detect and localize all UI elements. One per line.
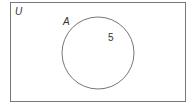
set-a-label: A — [62, 16, 70, 27]
set-a-region-value: 5 — [108, 32, 114, 43]
universal-set-label: U — [15, 6, 23, 17]
venn-diagram: U A 5 — [0, 0, 190, 110]
